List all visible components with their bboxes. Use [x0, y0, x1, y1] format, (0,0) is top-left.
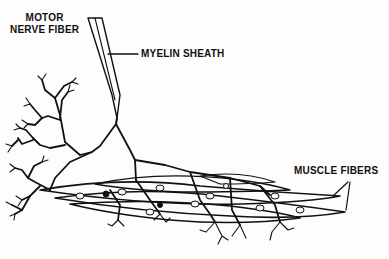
label-motor-line1: MOTOR: [10, 12, 79, 24]
diagram-canvas: MOTOR NERVE FIBER MYELIN SHEATH MUSCLE F…: [0, 0, 389, 259]
nerve-muscle-illustration: [0, 0, 389, 259]
myelinated-nerve-trunk: [88, 18, 120, 124]
label-myelin-sheath: MYELIN SHEATH: [141, 48, 225, 60]
label-motor-line2: NERVE FIBER: [10, 24, 79, 36]
label-muscle-fibers: MUSCLE FIBERS: [294, 165, 378, 177]
label-motor-nerve-fiber: MOTOR NERVE FIBER: [10, 12, 79, 36]
